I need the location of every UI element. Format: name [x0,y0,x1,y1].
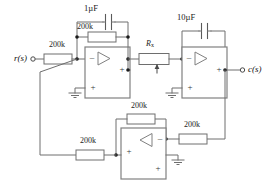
opamp-3-output-sign: + [126,146,131,156]
resistor-in-bottom [76,150,104,160]
opamp-2-output-sign: + [216,64,221,74]
wire-amp1-node-to-bottom-left [40,59,77,155]
opamp-1-output-sign: + [119,64,124,74]
opamp-2-noninverting-sign: + [187,82,192,92]
opamp-2-inverting-sign: – [186,52,192,62]
opamp-1-inverting-sign: – [89,52,95,62]
wire-amp2-ground [172,88,182,93]
wire-amp1-ground [75,88,85,93]
input-terminal[interactable] [31,57,35,61]
resistor-rx-label: Rx [145,39,154,49]
resistor-feedback-bottom [127,114,155,124]
wire-cap1-right [115,22,128,37]
input-label: r(s) [14,53,27,63]
resistor-feedback-1-label: 200k [77,22,93,31]
resistor-out-bottom-label: 200k [184,120,200,129]
opamp-3-noninverting-sign: + [155,163,160,173]
capacitor-1uf-label: 1µF [84,3,98,13]
resistor-in-bottom-label: 200k [80,136,96,145]
wire-amp3-ground [166,155,178,160]
resistor-feedback-bottom-label: 200k [131,101,147,110]
resistor-feedback-1 [88,32,116,42]
schematic-canvas: 1µF 200k r(s) 200k – + + Rx 10µF [0,0,271,190]
opamp-1-noninverting-sign: + [90,82,95,92]
output-terminal[interactable] [240,68,244,72]
output-label: c(s) [248,64,262,74]
resistor-out-bottom [179,134,207,144]
circuit-schematic: 1µF 200k r(s) 200k – + + Rx 10µF [0,0,271,190]
capacitor-10uf-label: 10µF [177,12,195,22]
resistor-rx-potentiometer [139,54,169,65]
junction-dot-amp1-out-top [126,35,130,39]
junction-dot-amp1-fb-top [75,35,79,39]
resistor-input-label: 200k [49,40,65,49]
opamp-3-inverting-sign: – [157,133,163,143]
junction-dot-amp1-out-bottom [126,68,130,72]
